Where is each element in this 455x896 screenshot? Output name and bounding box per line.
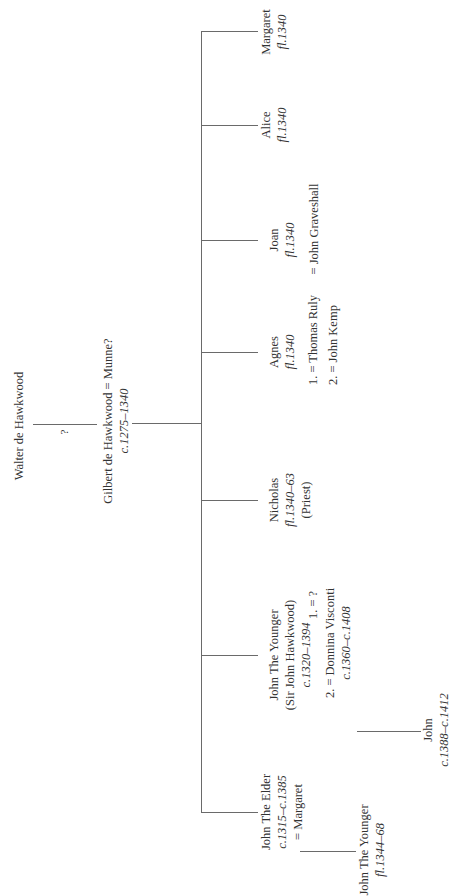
branch-line-john-younger	[201, 655, 258, 656]
branch-line-alice	[201, 125, 258, 126]
child-nicholas: Nicholas fl.1340–63 (Priest)	[266, 473, 314, 527]
child-joan: Joan fl.1340	[266, 222, 298, 257]
root-link-label: ?	[58, 430, 70, 435]
child-dates: fl.1340	[274, 9, 290, 55]
grandchild-name: John The Younger	[356, 804, 372, 895]
joan-spouse: = John Graveshall	[306, 183, 322, 274]
grandchild-dates: fl.1344–68	[372, 804, 388, 895]
marriage-label: 1. = Thomas Ruly	[305, 295, 321, 385]
grandchild-name: John	[420, 693, 436, 767]
child-margaret: Margaret fl.1340	[258, 9, 290, 55]
child-name: Joan	[266, 222, 282, 257]
child-name: Margaret	[258, 9, 274, 55]
child-agnes: Agnes fl.1340	[266, 334, 298, 369]
marriage-label: 1. = ?	[305, 591, 321, 619]
parent-person: Gilbert de Hawkwood = Munne? c.1275–1340	[100, 338, 132, 503]
child-name: Agnes	[266, 334, 282, 369]
grandchild-dates: c.1388–c.1412	[436, 693, 452, 767]
child-alias: (Sir John Hawkwood)	[282, 600, 298, 710]
parent-dates: c.1275–1340	[116, 338, 132, 503]
sir-john-child-line	[357, 731, 421, 732]
parent-name: Gilbert de Hawkwood = Munne?	[100, 338, 116, 503]
child-name: John The Younger	[266, 600, 282, 710]
grandchild-john-younger: John The Younger fl.1344–68	[356, 804, 388, 895]
marriage-label: 2. = Donnina Visconti	[322, 588, 338, 698]
sir-john-marriage-1: 1. = ?	[305, 591, 321, 619]
root-person: Walter de Hawkwood	[11, 372, 27, 481]
agnes-marriages: 1. = Thomas Ruly 2. = John Kemp	[305, 295, 341, 385]
parent-to-spine-line	[132, 423, 201, 424]
child-dates: c.1315–c.1385	[274, 774, 290, 850]
child-john-elder: John The Elder c.1315–c.1385 = Margaret	[258, 774, 306, 850]
children-spine-line	[201, 31, 202, 813]
grandchild-john: John c.1388–c.1412	[420, 693, 452, 767]
branch-line-margaret	[201, 31, 258, 32]
john-elder-child-line	[300, 851, 356, 852]
child-dates: fl.1340–63	[282, 473, 298, 527]
child-dates: fl.1340	[274, 107, 290, 142]
child-spouse: = Margaret	[290, 774, 306, 850]
child-dates: fl.1340	[282, 222, 298, 257]
marriage-label: 2. = John Kemp	[325, 295, 341, 385]
child-name: Alice	[258, 107, 274, 142]
child-alice: Alice fl.1340	[258, 107, 290, 142]
root-name: Walter de Hawkwood	[11, 372, 27, 481]
branch-line-john-elder	[201, 812, 258, 813]
child-dates: fl.1340	[282, 334, 298, 369]
child-name: John The Elder	[258, 774, 274, 850]
sir-john-marriage-2: 2. = Donnina Visconti c.1360–c.1408	[322, 588, 354, 698]
child-spouse: = John Graveshall	[306, 183, 322, 274]
branch-line-joan	[201, 240, 258, 241]
child-note: (Priest)	[298, 473, 314, 527]
root-to-parent-line	[33, 424, 97, 425]
branch-line-agnes	[201, 352, 258, 353]
branch-line-nicholas	[201, 500, 258, 501]
spouse-dates: c.1360–c.1408	[338, 588, 354, 698]
child-name: Nicholas	[266, 473, 282, 527]
